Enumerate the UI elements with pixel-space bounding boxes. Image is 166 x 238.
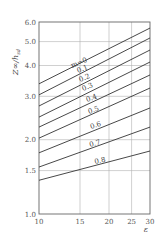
curve-label-0-7: 0.7 — [88, 138, 101, 149]
y-axis-title: Z∞/hsd — [11, 49, 21, 76]
chart: m=0 0.1 0.2 0.3 0.4 0.5 0.6 0.7 0.8 6.0 … — [0, 0, 166, 238]
x-axis-ticks: 10 15 20 25 30 — [35, 218, 155, 226]
y-tick-1-5: 1.5 — [25, 167, 36, 175]
curve-label-0-5: 0.5 — [87, 105, 100, 116]
grid — [39, 22, 150, 214]
y-tick-2: 2.0 — [25, 136, 36, 144]
curve-m-0 — [39, 28, 150, 84]
curve-label-0-4: 0.4 — [85, 92, 99, 104]
curve-label-0-6: 0.6 — [89, 120, 103, 131]
x-tick-10: 10 — [35, 218, 44, 226]
y-tick-4: 4.0 — [25, 62, 36, 70]
y-tick-5: 5.0 — [25, 38, 36, 46]
x-tick-15: 15 — [76, 218, 85, 226]
plot-frame — [39, 22, 150, 214]
y-tick-3: 3.0 — [25, 93, 36, 101]
y-tick-6: 6.0 — [25, 19, 36, 27]
y-axis-title-main: Z∞/hsd — [11, 49, 21, 76]
x-tick-25: 25 — [127, 218, 136, 226]
x-tick-20: 20 — [105, 218, 114, 226]
x-axis-title: ε — [144, 225, 148, 234]
curve-label-0-8: 0.8 — [94, 156, 107, 166]
curve-0-1 — [39, 38, 150, 95]
y-axis-ticks: 6.0 5.0 4.0 3.0 2.0 1.5 1.0 — [25, 19, 36, 219]
